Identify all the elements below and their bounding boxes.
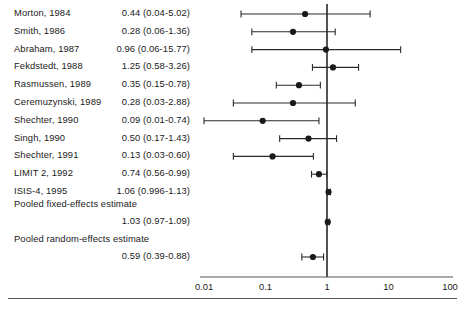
study-row-5 [233, 100, 355, 107]
study-estimate-8: 0.13 (0.03-0.60) [0, 149, 190, 160]
study-row-0 [241, 11, 370, 18]
study-row-0-point-estimate [302, 11, 308, 17]
study-row-8-point-estimate [269, 153, 275, 159]
study-estimate-4: 0.35 (0.15-0.78) [0, 78, 190, 89]
study-row-10-point-estimate [325, 189, 331, 195]
x-axis-tick-label-2: 1 [324, 281, 329, 292]
study-row-9-point-estimate [316, 171, 322, 177]
study-estimate-9: 0.74 (0.56-0.99) [0, 167, 190, 178]
study-estimate-1: 0.28 (0.06-1.36) [0, 25, 190, 36]
pooled-row-0-point-estimate [325, 219, 331, 225]
study-row-3-point-estimate [330, 64, 336, 70]
study-estimate-5: 0.28 (0.03-2.88) [0, 96, 190, 107]
pooled-estimate-1: 0.59 (0.39-0.88) [0, 250, 190, 261]
study-row-7 [280, 135, 337, 142]
study-row-3 [312, 64, 358, 71]
study-row-4-point-estimate [296, 82, 302, 88]
study-row-8 [233, 153, 313, 160]
study-estimate-3: 1.25 (0.58-3.26) [0, 60, 190, 71]
bottom-rule [8, 298, 457, 299]
study-estimate-10: 1.06 (0.996-1.13) [0, 185, 190, 196]
pooled-title-0: Pooled fixed-effects estimate [14, 198, 137, 209]
pooled-title-1: Pooled random-effects estimate [14, 233, 149, 244]
x-axis-tick-label-4: 100 [442, 281, 458, 292]
pooled-row-1 [302, 254, 324, 261]
x-axis-tick-label-3: 10 [383, 281, 393, 292]
study-row-5-point-estimate [290, 100, 296, 106]
study-row-9 [312, 171, 327, 178]
pooled-estimate-0: 1.03 (0.97-1.09) [0, 215, 190, 226]
study-row-7-point-estimate [305, 136, 311, 142]
study-row-2-point-estimate [323, 47, 329, 53]
study-estimate-6: 0.09 (0.01-0.74) [0, 114, 190, 125]
study-row-1 [252, 28, 335, 35]
x-axis-tick-label-0: 0.01 [195, 281, 213, 292]
pooled-row-0 [325, 219, 331, 226]
study-estimate-0: 0.44 (0.04-5.02) [0, 7, 190, 18]
study-estimate-2: 0.96 (0.06-15.77) [0, 43, 190, 54]
study-row-6-point-estimate [260, 118, 266, 124]
study-row-6 [204, 117, 319, 124]
study-row-10 [325, 189, 331, 196]
forest-plot: Morton, 19840.44 (0.04-5.02)Smith, 19860… [0, 0, 465, 314]
study-estimate-7: 0.50 (0.17-1.43) [0, 132, 190, 143]
study-row-1-point-estimate [290, 29, 296, 35]
pooled-row-1-point-estimate [310, 254, 316, 260]
x-axis-tick-label-1: 0.1 [259, 281, 272, 292]
study-row-2 [252, 46, 401, 53]
study-row-4 [276, 82, 320, 89]
